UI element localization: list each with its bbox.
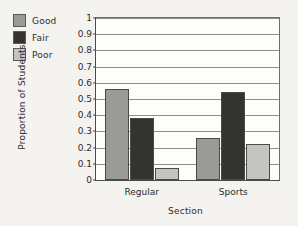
y-tick-label: 0.8	[78, 45, 92, 55]
bar-fair-regular	[130, 118, 154, 180]
y-tick-label: 0.7	[78, 62, 92, 72]
y-tick-label: 1	[86, 13, 92, 23]
legend-item-good: Good	[13, 13, 67, 28]
y-tick-mark	[93, 163, 96, 164]
y-tick-mark	[93, 82, 96, 83]
legend-swatch-good	[13, 14, 26, 27]
y-tick-mark	[93, 34, 96, 35]
gridline	[96, 50, 279, 51]
bar-good-sports	[196, 138, 220, 180]
y-tick-label: 0.5	[78, 94, 92, 104]
gridline	[96, 83, 279, 84]
y-tick-mark	[93, 147, 96, 148]
gridline	[96, 34, 279, 35]
x-tick-label: Sports	[219, 187, 248, 197]
y-tick-label: 0.2	[78, 143, 92, 153]
legend-label-poor: Poor	[32, 50, 53, 60]
x-axis-title: Section	[88, 206, 283, 216]
bar-poor-regular	[155, 168, 179, 180]
y-tick-mark	[93, 131, 96, 132]
y-tick-label: 0.3	[78, 126, 92, 136]
legend-label-good: Good	[32, 16, 57, 26]
legend-label-fair: Fair	[32, 33, 49, 43]
y-tick-mark	[93, 18, 96, 19]
y-tick-mark	[93, 180, 96, 181]
bar-chart-figure: Good Fair Poor Proportion of Students Se…	[0, 0, 298, 226]
bar-poor-sports	[246, 144, 270, 180]
y-tick-label: 0.1	[78, 159, 92, 169]
x-tick-label: Regular	[124, 187, 159, 197]
y-tick-label: 0.6	[78, 78, 92, 88]
gridline	[96, 18, 279, 19]
y-tick-mark	[93, 99, 96, 100]
bar-fair-sports	[221, 92, 245, 180]
y-tick-mark	[93, 115, 96, 116]
bar-good-regular	[105, 89, 129, 180]
y-tick-label: 0.4	[78, 110, 92, 120]
y-tick-mark	[93, 50, 96, 51]
y-tick-label: 0.9	[78, 29, 92, 39]
y-axis-title: Proportion of Students	[17, 32, 27, 162]
plot-area: 00.10.20.30.40.50.60.70.80.91RegularSpor…	[95, 17, 280, 181]
y-tick-label: 0	[86, 175, 92, 185]
y-tick-mark	[93, 66, 96, 67]
gridline	[96, 67, 279, 68]
